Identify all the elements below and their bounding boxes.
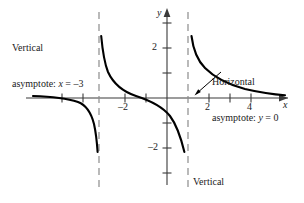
annotation-horizontal-asymptote: Horizontal asymptote: y = 0 (212, 52, 278, 148)
x-tick-label-2: 2 (205, 101, 210, 112)
annotation-vertical-left-value: = –3 (63, 78, 84, 89)
annotation-horizontal-prefix: asymptote: (212, 112, 258, 123)
x-tick-label-neg2: –2 (118, 101, 128, 112)
y-tick-label-neg2: –2 (148, 141, 158, 152)
y-axis-label: y (157, 7, 161, 18)
annotation-horizontal-line1: Horizontal (212, 76, 278, 88)
x-axis-label: x (283, 99, 287, 110)
annotation-horizontal-value: = 0 (263, 112, 279, 123)
figure-canvas: Vertical asymptote: x = –3 Horizontal as… (0, 0, 304, 203)
y-axis (163, 8, 172, 185)
annotation-vertical-right-line1: Vertical (193, 176, 259, 188)
annotation-vertical-left-line2: asymptote: x = –3 (12, 78, 83, 90)
x-tick-label-4: 4 (247, 101, 252, 112)
annotation-horizontal-line2: asymptote: y = 0 (212, 112, 278, 124)
annotation-vertical-left-line1: Vertical (12, 42, 83, 54)
annotation-vertical-asymptote-right: Vertical asymptote: x = 1 (193, 152, 259, 203)
curve-middle-branch (101, 36, 184, 152)
annotation-vertical-left-prefix: asymptote: (12, 78, 58, 89)
annotation-vertical-asymptote-left: Vertical asymptote: x = –3 (12, 18, 83, 114)
y-tick-label-2: 2 (152, 41, 157, 52)
